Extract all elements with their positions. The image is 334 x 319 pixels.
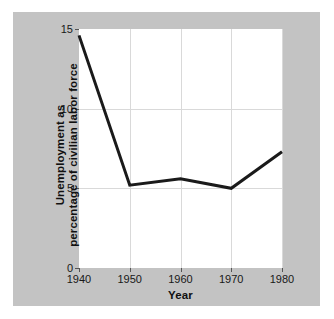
plot-wrapper: 051015 19401950196019701980 Year Unemplo… [0,0,334,319]
data-series-line [79,29,282,268]
x-axis-tick-label: 1960 [159,274,203,285]
y-axis-title-line-1: Unemployment as [54,35,67,275]
y-axis-tick-label: 15 [51,24,73,35]
gridline-vertical [282,29,283,268]
y-axis-title: Unemployment as percentage of civilian l… [54,35,80,275]
series-polyline [79,35,282,188]
x-axis-tick-label: 1980 [260,274,304,285]
x-axis-tick-mark [130,268,131,272]
x-axis-tick-label: 1970 [209,274,253,285]
x-axis-title: Year [79,289,282,301]
x-axis-tick-mark [181,268,182,272]
chart-figure: 051015 19401950196019701980 Year Unemplo… [0,0,334,319]
x-axis-tick-mark [231,268,232,272]
x-axis-tick-label: 1950 [108,274,152,285]
x-axis-tick-mark [282,268,283,272]
y-axis-title-line-2: percentage of civilian labor force [67,35,80,275]
x-axis-tick-label: 1940 [57,274,101,285]
